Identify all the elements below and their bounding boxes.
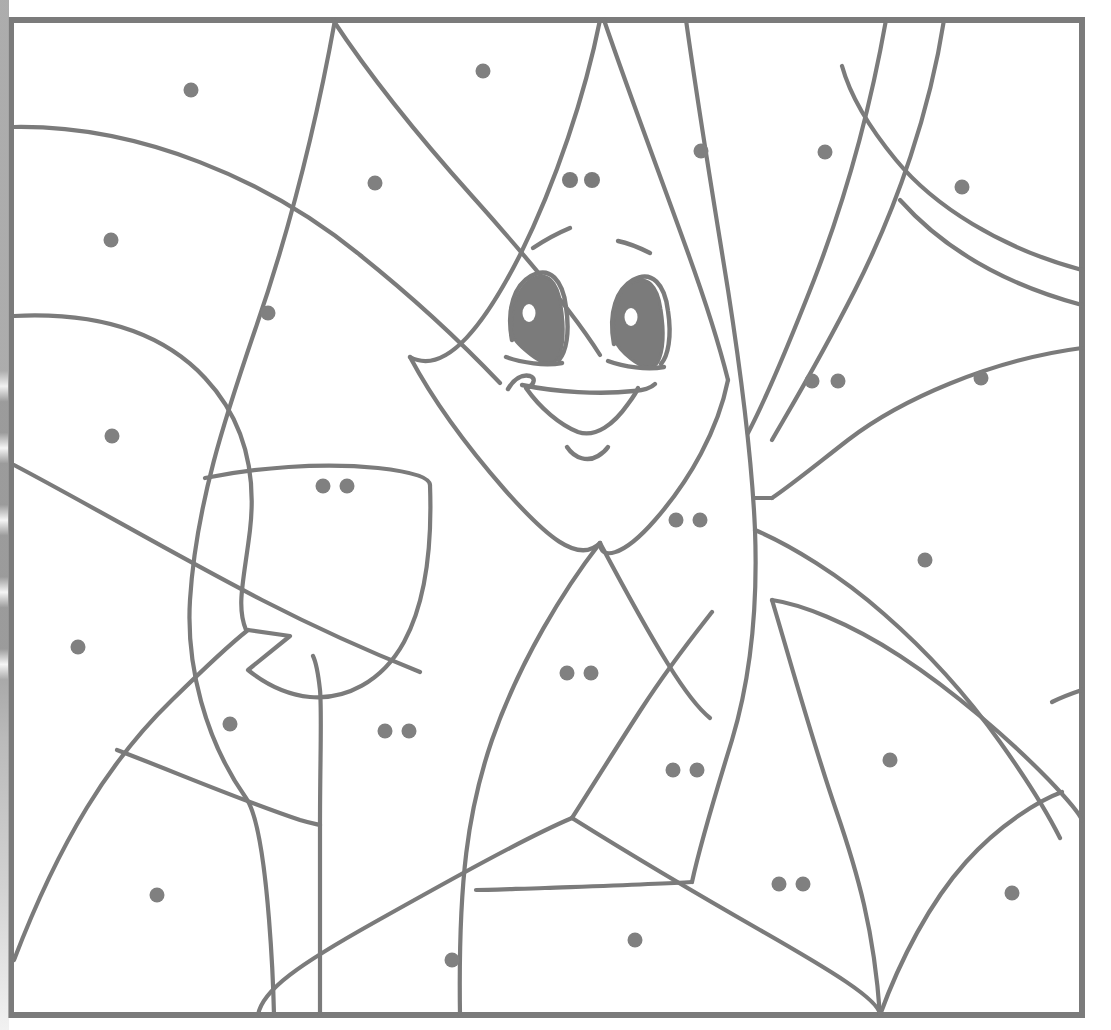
nostril-dot-right-icon (584, 172, 600, 188)
color-code-dot-pair (772, 877, 811, 892)
color-code-dot (666, 763, 681, 778)
region-line-right-split (755, 530, 1060, 838)
coloring-page-artwork (0, 0, 1111, 1030)
region-line-ur-arc-1 (772, 20, 944, 440)
eye-right-highlight-icon (625, 308, 638, 326)
region-line-ul-arc-1 (14, 127, 500, 383)
mouth-tongue-icon (526, 388, 638, 433)
color-code-dot (805, 374, 820, 389)
color-code-dot (368, 176, 383, 191)
color-code-dots-pairs (316, 374, 846, 892)
color-code-dot (974, 371, 989, 386)
nostril-dot-left-icon (562, 172, 578, 188)
color-code-dot (818, 145, 833, 160)
color-code-dot (378, 724, 393, 739)
color-code-dot-pair (378, 724, 417, 739)
color-code-dot (831, 374, 846, 389)
eye-left-highlight-icon (523, 304, 536, 322)
color-code-dot (104, 233, 119, 248)
color-code-dot (261, 306, 276, 321)
region-line-ur-arc-3 (900, 200, 1082, 305)
color-code-dot (690, 763, 705, 778)
color-code-dot-pair (805, 374, 846, 389)
color-code-dot-pair (669, 513, 708, 528)
coloring-page-canvas (0, 0, 1111, 1030)
region-line-jaw (460, 543, 600, 1015)
eyebrow-left-icon (533, 228, 570, 248)
color-code-dot (445, 953, 460, 968)
region-line-lower-fan-3 (572, 612, 712, 818)
color-code-dot (1005, 886, 1020, 901)
region-line-lower-fan-1 (572, 818, 880, 1015)
color-code-dot-pair (316, 479, 355, 494)
color-code-dot-pair (560, 666, 599, 681)
eyebrow-right-icon (618, 241, 650, 253)
color-code-dot (883, 753, 898, 768)
region-line-left-lower-branch (117, 750, 320, 825)
region-line-lower-divider (476, 882, 692, 890)
color-code-dot (694, 144, 709, 159)
color-code-dot (918, 553, 933, 568)
color-code-dot (693, 513, 708, 528)
region-line-right-lower-arc (772, 600, 1082, 820)
color-code-dot (796, 877, 811, 892)
color-code-dot (476, 64, 491, 79)
color-code-dot (560, 666, 575, 681)
color-code-dot (340, 479, 355, 494)
region-line-right-band-right (748, 20, 886, 433)
region-line-neck (313, 656, 321, 825)
cartoon-face (506, 172, 670, 459)
region-line-lower-fan-2 (258, 818, 572, 1015)
color-code-dot (150, 888, 165, 903)
region-line-left-lobe (14, 315, 252, 630)
color-code-dot (584, 666, 599, 681)
region-line-ul-arc-2 (189, 20, 335, 1015)
color-code-dot (184, 83, 199, 98)
region-line-right-fan-2 (880, 792, 1062, 1015)
color-code-dot (223, 717, 238, 732)
page-border (11, 20, 1082, 1015)
puzzle-region-lines (14, 20, 1082, 1015)
region-line-right-fan-1 (772, 600, 880, 1015)
color-code-dot (628, 933, 643, 948)
region-line-bottom-right-edge (1052, 690, 1082, 702)
color-code-dot (105, 429, 120, 444)
region-line-face-left (410, 20, 600, 361)
color-code-dot (71, 640, 86, 655)
region-line-right-mid-horizontal (772, 348, 1082, 498)
color-code-dot (669, 513, 684, 528)
region-line-face-right-lower (600, 380, 728, 553)
color-code-dot-pair (666, 763, 705, 778)
color-code-dot (402, 724, 417, 739)
color-code-dot (772, 877, 787, 892)
color-code-dot (955, 180, 970, 195)
mouth-chin-crease-icon (567, 447, 608, 459)
region-line-left-lower-arc (14, 630, 248, 960)
color-code-dot (316, 479, 331, 494)
